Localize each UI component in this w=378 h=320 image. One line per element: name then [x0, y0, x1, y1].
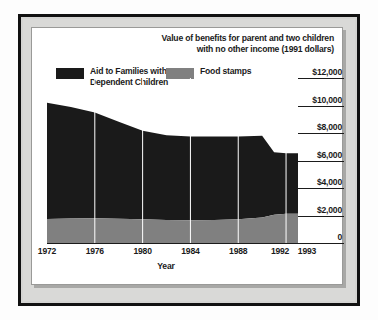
- x-axis-title: Year: [34, 261, 298, 271]
- series-layer: [47, 103, 298, 243]
- chart-title: Value of benefits for parent and two chi…: [150, 33, 334, 55]
- y-axis-tick-label: $10,000: [298, 95, 342, 105]
- y-axis-tick-label: $6,000: [298, 150, 342, 160]
- plot-area: [47, 78, 298, 243]
- chart-title-line2: with no other income (1991 dollars): [150, 44, 334, 55]
- x-axis-line: [47, 243, 344, 244]
- legend-label-food-stamps-line1: Food stamps: [200, 66, 251, 77]
- y-axis-tick-label: $2,000: [298, 205, 342, 215]
- x-axis-tick-label: 1984: [181, 246, 199, 256]
- chart-page: Value of benefits for parent and two chi…: [0, 0, 378, 320]
- x-axis-tick-label: 1980: [133, 246, 151, 256]
- chart-title-line1: Value of benefits for parent and two chi…: [150, 33, 334, 44]
- x-axis-tick-label: 1988: [229, 246, 247, 256]
- x-axis-tick-label: 1992: [271, 246, 289, 256]
- series-area-afdc: [47, 103, 298, 220]
- y-axis-tick-label: $12,000: [298, 67, 342, 77]
- x-axis-ticks: 1972197619801984198819921993: [34, 246, 344, 261]
- y-axis-tick-label: 0: [298, 232, 342, 242]
- y-axis-tick-rule: [298, 216, 344, 217]
- y-axis-tick-rule: [298, 78, 344, 79]
- x-axis-tick-label: 1972: [38, 246, 56, 256]
- y-axis-tick-rule: [298, 106, 344, 107]
- y-axis-tick-rule: [298, 161, 344, 162]
- area-chart-svg: [47, 78, 298, 243]
- y-axis-tick-label: $4,000: [298, 177, 342, 187]
- x-axis-tick-label: 1976: [86, 246, 104, 256]
- y-axis: $12,000$10,000$8,000$6,000$4,000$2,0000: [298, 78, 344, 244]
- y-axis-tick-label: $8,000: [298, 122, 342, 132]
- y-axis-tick-rule: [298, 188, 344, 189]
- legend-label-food-stamps: Food stamps: [200, 66, 251, 77]
- x-axis-tick-label: 1993: [298, 246, 316, 256]
- y-axis-tick-rule: [298, 133, 344, 134]
- legend-label-afdc-line1: Aid to Families with: [90, 66, 168, 77]
